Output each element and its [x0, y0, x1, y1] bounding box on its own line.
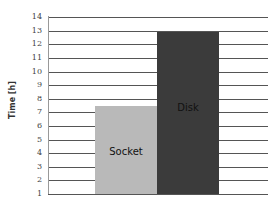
y-tick-label: 6: [26, 122, 42, 130]
bar-label-socket: Socket: [95, 146, 157, 157]
y-tick-label: 10: [26, 68, 42, 76]
bar-socket: Socket: [95, 106, 157, 194]
y-tick-label: 4: [26, 149, 42, 157]
y-tick-label: 12: [26, 40, 42, 48]
y-tick-label: 13: [26, 27, 42, 35]
bar-label-disk: Disk: [157, 102, 219, 113]
y-tick-label: 14: [26, 13, 42, 21]
y-axis-label: Time [h]: [8, 81, 17, 119]
bar-chart: Time [h] 1413121110987654321 Socket Disk: [0, 0, 280, 207]
y-axis-line: [48, 16, 49, 194]
y-tick-label: 5: [26, 136, 42, 144]
gridline: [48, 194, 268, 195]
y-tick-label: 7: [26, 108, 42, 116]
y-tick-label: 11: [26, 54, 42, 62]
y-tick-label: 2: [26, 176, 42, 184]
y-tick-label: 9: [26, 81, 42, 89]
y-tick-label: 1: [26, 190, 42, 198]
y-tick-label: 3: [26, 163, 42, 171]
gridline: [48, 17, 268, 18]
bar-disk: Disk: [157, 32, 219, 194]
y-tick-label: 8: [26, 95, 42, 103]
